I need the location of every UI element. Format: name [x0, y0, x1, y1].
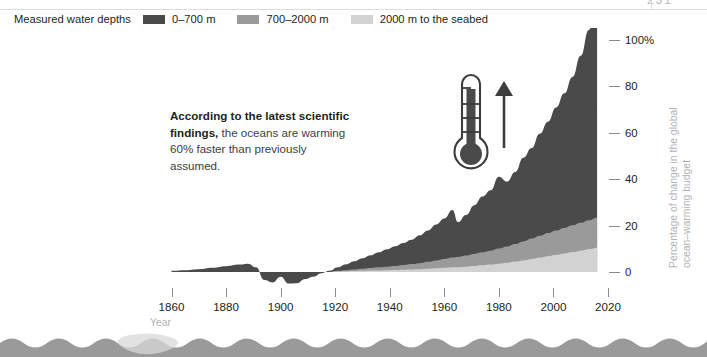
x-tick-label-2000: 2000	[541, 300, 567, 313]
y-tick-label-40: 40	[625, 173, 638, 185]
header-divider	[0, 9, 707, 10]
x-tick-mark-1980	[499, 288, 500, 297]
thermometer-icon	[440, 72, 520, 182]
legend-label-700-2000m: 700–2000 m	[266, 13, 328, 25]
y-tick-mark-60	[609, 133, 620, 134]
legend-swatch-2000m-seabed	[351, 15, 373, 24]
y-tick-mark-20	[609, 226, 620, 227]
x-tick-mark-1860	[172, 288, 173, 297]
chart-annotation: According to the latest scientific findi…	[170, 108, 355, 174]
y-tick-mark-80	[609, 86, 620, 87]
chart-legend: Measured water depths 0–700 m 700–2000 m…	[14, 11, 488, 27]
y-tick-mark-100	[609, 40, 620, 41]
legend-item-2000m-seabed: 2000 m to the seabed	[351, 13, 488, 25]
y-axis-title-line1: Percentage of change in the global	[668, 107, 679, 268]
x-tick-label-2020: 2020	[595, 300, 621, 313]
x-tick-mark-1900	[281, 288, 282, 297]
arrow-up-icon	[495, 81, 513, 148]
y-tick-mark-0	[609, 272, 620, 273]
legend-item-0-700m: 0–700 m	[143, 13, 216, 25]
x-tick-label-1980: 1980	[486, 300, 512, 313]
x-tick-label-1880: 1880	[213, 300, 239, 313]
wave-decoration	[0, 327, 707, 357]
legend-title: Measured water depths	[14, 13, 131, 25]
legend-label-2000m-seabed: 2000 m to the seabed	[380, 13, 488, 25]
header-vertical-rule	[651, 0, 652, 9]
y-tick-label-0: 0	[625, 266, 631, 278]
x-tick-mark-2020	[608, 288, 609, 297]
y-axis-title: Percentage of change in the global ocean…	[668, 107, 693, 268]
x-tick-label-1940: 1940	[377, 300, 403, 313]
y-tick-label-100: 100%	[625, 34, 654, 46]
y-tick-label-80: 80	[625, 80, 638, 92]
x-tick-mark-1940	[390, 288, 391, 297]
x-tick-label-1900: 1900	[268, 300, 294, 313]
x-tick-label-1860: 1860	[159, 300, 185, 313]
x-tick-mark-2000	[553, 288, 554, 297]
legend-swatch-0-700m	[143, 15, 165, 24]
y-tick-label-60: 60	[625, 127, 638, 139]
x-tick-label-1960: 1960	[431, 300, 457, 313]
x-tick-mark-1880	[226, 288, 227, 297]
legend-item-700-2000m: 700–2000 m	[237, 13, 328, 25]
y-tick-mark-40	[609, 179, 620, 180]
legend-swatch-700-2000m	[237, 15, 259, 24]
legend-label-0-700m: 0–700 m	[172, 13, 216, 25]
x-tick-mark-1920	[335, 288, 336, 297]
y-tick-label-20: 20	[625, 220, 638, 232]
x-tick-mark-1960	[444, 288, 445, 297]
y-axis-title-line2: ocean–warming budget	[681, 107, 694, 268]
x-tick-label-1920: 1920	[322, 300, 348, 313]
